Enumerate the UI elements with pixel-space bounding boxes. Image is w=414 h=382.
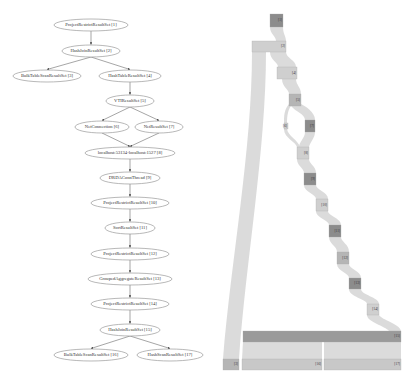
flow-box[interactable]: [17]: [324, 359, 401, 370]
flow-box-label: [15]: [394, 334, 400, 338]
ribbon-1-2: [270, 27, 286, 41]
flow-box[interactable]: [3]: [223, 359, 239, 370]
tree-edge: [130, 336, 170, 349]
flow-box[interactable]: [15]: [243, 331, 401, 342]
node-label: NetResultSet [7]: [144, 124, 175, 129]
plan-node[interactable]: NetConnection [6]: [75, 121, 129, 133]
flow-box[interactable]: [10]: [316, 199, 328, 211]
plan-node[interactable]: GroupedAggregateResultSet [13]: [88, 273, 172, 285]
tree-nodes: ProjectRestrictResultSet [1]HashJoinResu…: [13, 19, 203, 361]
flow-box[interactable]: [1]: [270, 14, 283, 27]
flow-box-label: [13]: [354, 281, 360, 285]
flow-box-label: [11]: [334, 229, 340, 233]
flow-box-rect: [242, 359, 322, 370]
plan-node[interactable]: HashScanResultSet [17]: [137, 349, 203, 361]
ribbon-10-11: [316, 211, 341, 225]
flow-box[interactable]: [5]: [289, 94, 301, 106]
tree-edge: [47, 57, 91, 70]
ribbon-4-5: [282, 79, 301, 94]
node-label: DRDAConnThread [9]: [109, 175, 152, 180]
plan-node[interactable]: DRDAConnThread [9]: [100, 172, 160, 184]
node-label: GroupedAggregateResultSet [13]: [99, 276, 161, 281]
plan-node[interactable]: HashJoinResultSet [15]: [100, 324, 160, 336]
flow-box-label: [4]: [292, 71, 296, 75]
flow-box-label: [3]: [234, 362, 238, 366]
flow-box[interactable]: [8]: [297, 147, 309, 159]
node-label: ProjectRestrictResultSet [12]: [103, 251, 157, 256]
flow-box-label: [17]: [394, 362, 400, 366]
plan-node[interactable]: BulkTableScanResultSet [16]: [54, 349, 128, 361]
flow-box[interactable]: [9]: [304, 173, 316, 185]
flow-box-label: [1]: [278, 18, 282, 22]
node-label: HashJoinResultSet [2]: [70, 48, 112, 53]
plan-node[interactable]: NetResultSet [7]: [135, 121, 183, 133]
ribbon-5-7: [291, 104, 315, 120]
ribbon-6-8: [284, 129, 300, 147]
ribbon-2-4: [270, 52, 296, 67]
tree-edge: [130, 107, 159, 121]
tree-edge: [91, 336, 130, 349]
plan-node[interactable]: ProjectRestrictResultSet [12]: [91, 248, 169, 260]
tree-edge: [102, 133, 130, 147]
node-label: ProjectRestrictResultSet [14]: [103, 301, 157, 306]
ribbon-15-17: [324, 342, 401, 359]
ribbon-9-10: [304, 185, 328, 199]
flow-box-label: [10]: [321, 203, 327, 207]
node-label: HashScanResultSet [17]: [148, 352, 193, 357]
ribbon-2-3: [223, 52, 266, 359]
flow-box-label: [12]: [342, 256, 348, 260]
node-label: BulkTableScanResultSet [3]: [21, 73, 74, 78]
node-label: ProjectRestrictResultSet [1]: [65, 22, 117, 27]
flow-box-label: [2]: [281, 44, 285, 48]
plan-node[interactable]: BulkTableScanResultSet [3]: [13, 70, 81, 82]
flow-box[interactable]: [11]: [329, 225, 341, 237]
node-label: SortResultSet [11]: [113, 225, 147, 230]
flow-box-label: [6]: [283, 124, 287, 128]
plan-node[interactable]: HashJoinResultSet [2]: [62, 45, 120, 57]
node-label: HashJoinResultSet [15]: [108, 327, 152, 332]
plan-node[interactable]: HashTableResultSet [4]: [99, 70, 161, 82]
flow-box[interactable]: [16]: [242, 359, 322, 370]
plan-node[interactable]: SortResultSet [11]: [105, 222, 155, 234]
flow-box[interactable]: [4]: [277, 67, 297, 79]
ribbon-14-15: [367, 315, 401, 331]
ribbon-7-8: [299, 132, 315, 147]
flow-box[interactable]: [6]: [283, 123, 288, 129]
flow-diagram: [1][2][4][5][6][7][8][9][10][11][12][13]…: [223, 14, 401, 370]
ribbon-5-6: [284, 104, 291, 123]
ribbon-12-13: [337, 264, 361, 278]
flow-box-rect: [324, 359, 401, 370]
node-label: localhost:53134-localhost:1527 [8]: [98, 150, 163, 155]
plan-node[interactable]: localhost:53134-localhost:1527 [8]: [85, 147, 175, 159]
flow-box-label: [8]: [304, 151, 308, 155]
flow-box-rect: [243, 331, 401, 342]
flow-box[interactable]: [2]: [252, 41, 286, 52]
node-label: BulkTableScanResultSet [16]: [64, 352, 119, 357]
node-label: HashTableResultSet [4]: [108, 73, 152, 78]
flow-box[interactable]: [12]: [337, 252, 349, 264]
plan-node[interactable]: ProjectRestrictResultSet [1]: [54, 19, 128, 31]
ribbon-8-9: [297, 159, 316, 173]
diagram-canvas: ProjectRestrictResultSet [1]HashJoinResu…: [0, 0, 414, 382]
flow-box[interactable]: [7]: [305, 120, 315, 132]
flow-box[interactable]: [14]: [367, 304, 379, 315]
plan-node[interactable]: ProjectRestrictResultSet [10]: [91, 197, 169, 209]
flow-box[interactable]: [13]: [349, 278, 361, 289]
query-plan-tree: ProjectRestrictResultSet [1]HashJoinResu…: [13, 19, 203, 361]
flow-box-label: [9]: [311, 177, 315, 181]
node-label: VTIResultSet [5]: [114, 98, 146, 103]
flow-box-label: [14]: [372, 307, 378, 311]
flow-box-label: [16]: [315, 362, 321, 366]
ribbon-11-12: [329, 237, 349, 252]
flow-box-label: [7]: [310, 124, 314, 128]
ribbon-15-16: [242, 342, 322, 359]
ribbon-13-14: [349, 289, 379, 304]
tree-edge: [130, 133, 159, 147]
node-label: NetConnection [6]: [85, 124, 120, 129]
flow-box-label: [5]: [296, 98, 300, 102]
tree-edge: [91, 57, 130, 70]
node-label: ProjectRestrictResultSet [10]: [103, 200, 157, 205]
plan-node[interactable]: ProjectRestrictResultSet [14]: [91, 298, 169, 310]
tree-edge: [102, 107, 130, 121]
plan-node[interactable]: VTIResultSet [5]: [106, 95, 154, 107]
